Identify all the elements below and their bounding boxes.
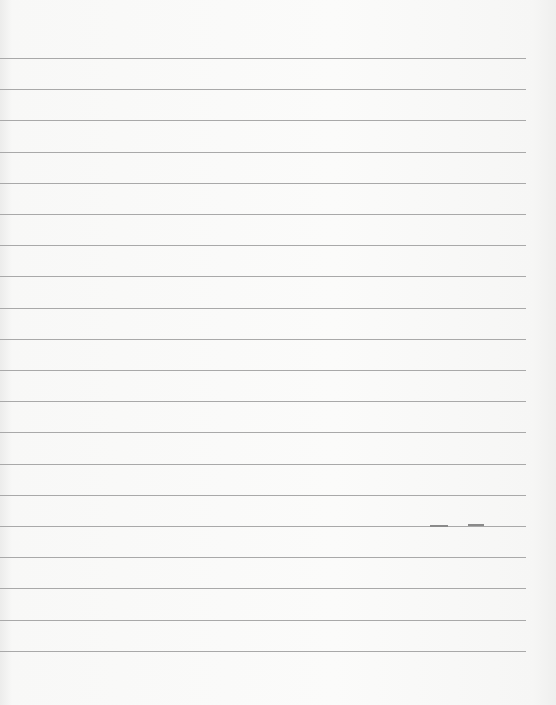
ruled-line: [0, 370, 526, 371]
ruled-line: [0, 58, 526, 59]
ruled-line: [0, 183, 526, 184]
ruled-line: [0, 401, 526, 402]
pencil-mark: [468, 524, 484, 526]
ruled-line: [0, 651, 526, 652]
ruled-line: [0, 339, 526, 340]
ruled-line: [0, 152, 526, 153]
lined-paper: [0, 0, 556, 705]
ruled-line: [0, 308, 526, 309]
ruled-line: [0, 432, 526, 433]
ruled-line: [0, 245, 526, 246]
ruled-line: [0, 120, 526, 121]
ruled-line: [0, 620, 526, 621]
ruled-line: [0, 464, 526, 465]
ruled-line: [0, 557, 526, 558]
ruled-line: [0, 495, 526, 496]
ruled-line: [0, 89, 526, 90]
pencil-mark: [430, 525, 448, 527]
ruled-line: [0, 588, 526, 589]
ruled-line: [0, 276, 526, 277]
ruled-line: [0, 214, 526, 215]
